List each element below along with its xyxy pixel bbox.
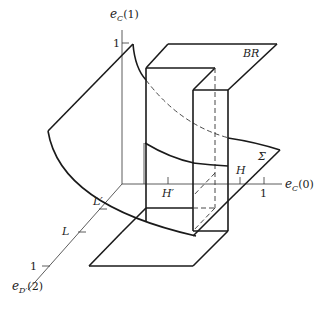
label-ed2: eD′(2) [12,279,43,295]
label-ec0: eC(0) [285,177,314,193]
label-h: H [235,164,246,177]
label-ec1: eC(1) [110,7,139,23]
label-sigma: Σ [257,150,266,163]
label-l-prime: L′ [92,195,103,208]
label-l: L [61,225,69,238]
curved-surface [48,44,229,236]
label-br: BR [242,47,259,60]
axis-ed2 [28,184,122,290]
label-ec0-one: 1 [260,187,267,200]
diagram-canvas: eC(1) 1 eC(0) H′ H 1 eD′(2) L′ L 1 BR Σ [0,0,329,312]
br-plane [168,44,277,90]
label-h-prime: H′ [161,187,175,200]
label-ec1-tick: 1 [113,37,120,50]
axes [28,30,282,290]
outer-box [122,44,228,232]
bottom-plane [89,201,228,266]
label-ed2-one: 1 [30,260,37,273]
